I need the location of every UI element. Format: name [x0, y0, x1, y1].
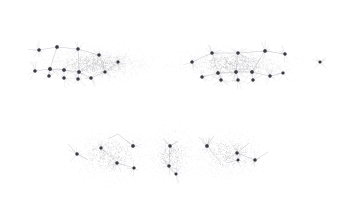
- figure-root: Sparse point-cloud clusters with darker …: [0, 0, 355, 208]
- scatter-plot-canvas: [0, 0, 355, 208]
